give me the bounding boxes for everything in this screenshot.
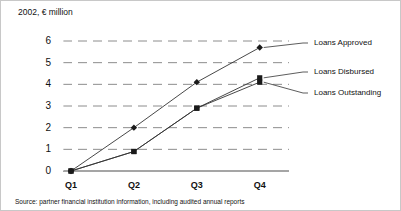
leader-line-2	[264, 82, 308, 93]
data-point-marker	[131, 124, 137, 130]
y-tick-label: 5	[31, 58, 51, 68]
data-point-marker	[257, 80, 262, 85]
y-tick-label: 4	[31, 79, 51, 89]
legend-label-loans-outstanding: Loans Outstanding	[314, 88, 381, 98]
legend-label-loans-approved: Loans Approved	[314, 38, 372, 48]
axis-lines	[63, 37, 289, 171]
data-point-marker	[194, 106, 199, 111]
data-point-marker	[68, 168, 73, 173]
x-tick-label-q2: Q2	[114, 181, 154, 190]
chart-figure: 2002, € million 0123456 Q1Q2Q3Q4 Loans A…	[0, 0, 401, 211]
leader-line-1	[264, 72, 308, 78]
y-tick-label: 2	[31, 123, 51, 133]
x-tick-label-q3: Q3	[177, 181, 217, 190]
legend-label-loans-disbursed: Loans Disbursed	[314, 67, 374, 77]
series-lines	[71, 48, 260, 172]
leader-line-0	[264, 43, 308, 48]
source-note: Source: partner financial institution in…	[15, 197, 244, 206]
series-markers	[68, 44, 263, 174]
y-tick-label: 0	[31, 166, 51, 176]
legend-leader-lines	[264, 43, 308, 93]
data-point-marker	[257, 44, 263, 50]
x-tick-label-q1: Q1	[51, 181, 91, 190]
series-line-1	[71, 78, 260, 171]
y-tick-label: 3	[31, 101, 51, 111]
data-point-marker	[131, 149, 136, 154]
series-line-0	[71, 48, 260, 172]
series-line-2	[71, 82, 260, 171]
x-tick-label-q4: Q4	[240, 181, 280, 190]
y-tick-label: 1	[31, 144, 51, 154]
gridlines	[63, 41, 289, 149]
y-tick-label: 6	[31, 36, 51, 46]
